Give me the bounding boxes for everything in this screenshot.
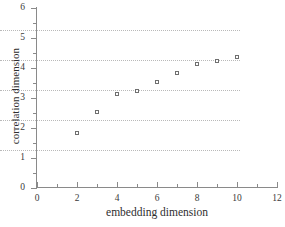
y-minor-tick-0.5: [33, 173, 37, 174]
x-tick-label-6: 6: [147, 194, 167, 204]
x-minor-tick-5: [137, 184, 138, 188]
data-point-marker: [135, 89, 139, 93]
data-point-marker: [195, 62, 199, 66]
y-tick-5: [31, 38, 37, 39]
x-minor-tick-1: [57, 184, 58, 188]
y-minor-tick-1.5: [33, 143, 37, 144]
x-minor-tick-9: [217, 184, 218, 188]
gridline-y-5: [0, 30, 240, 31]
x-tick-8: [197, 182, 198, 188]
x-tick-12: [277, 182, 278, 188]
y-minor-tick-4.5: [33, 53, 37, 54]
x-tick-10: [237, 182, 238, 188]
data-point-marker: [115, 92, 119, 96]
data-point-marker: [75, 131, 79, 135]
y-tick-0: [31, 188, 37, 189]
y-minor-tick-3.5: [33, 83, 37, 84]
x-minor-tick-3: [97, 184, 98, 188]
y-tick-3: [31, 98, 37, 99]
x-tick-4: [117, 182, 118, 188]
gridline-y-4: [0, 60, 240, 61]
plot-area: [37, 8, 277, 188]
data-point-marker: [175, 71, 179, 75]
data-point-marker: [155, 80, 159, 84]
y-tick-2: [31, 128, 37, 129]
x-minor-tick-7: [177, 184, 178, 188]
y-minor-tick-5.5: [33, 23, 37, 24]
data-point-marker: [215, 59, 219, 63]
gridline-y-1: [0, 150, 240, 151]
y-tick-1: [31, 158, 37, 159]
data-point-marker: [235, 55, 239, 59]
x-tick-label-8: 8: [187, 194, 207, 204]
x-tick-0: [37, 182, 38, 188]
x-tick-label-10: 10: [227, 194, 247, 204]
y-tick-4: [31, 68, 37, 69]
gridline-y-2: [0, 120, 240, 121]
x-tick-6: [157, 182, 158, 188]
x-minor-tick-11: [257, 184, 258, 188]
gridline-y-3: [0, 90, 240, 91]
x-tick-label-4: 4: [107, 194, 127, 204]
x-tick-label-2: 2: [67, 194, 87, 204]
scatter-chart-figure: 0123456 024681012 embedding dimension co…: [0, 0, 285, 227]
y-tick-6: [31, 8, 37, 9]
y-minor-tick-2.5: [33, 113, 37, 114]
x-tick-label-0: 0: [27, 194, 47, 204]
y-axis-title: correlation dimension: [9, 21, 21, 171]
x-tick-2: [77, 182, 78, 188]
x-tick-label-12: 12: [267, 194, 285, 204]
x-axis-title: embedding dimension: [37, 206, 277, 219]
data-point-marker: [95, 110, 99, 114]
y-axis-title-wrap: correlation dimension: [0, 0, 16, 227]
